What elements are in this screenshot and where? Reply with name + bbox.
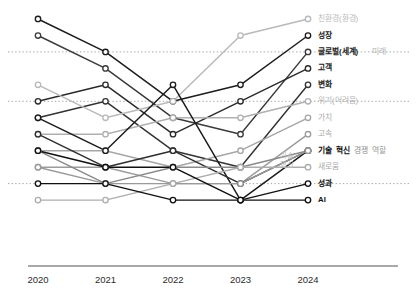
series-point <box>103 115 108 120</box>
series-label: 위기(어려움) <box>318 95 359 105</box>
series-line <box>38 151 308 200</box>
series-label: 혁신 <box>336 145 350 155</box>
series-point <box>305 165 310 170</box>
x-tick-2020: 2020 <box>27 274 48 285</box>
series-label: 역할 <box>372 145 386 155</box>
inner-labels: 기술혁신 <box>280 151 294 170</box>
x-tick-2022: 2022 <box>162 274 183 285</box>
series-point <box>238 148 243 153</box>
series-point <box>103 181 108 186</box>
series-lines <box>38 19 308 200</box>
series-point <box>170 165 175 170</box>
series-point <box>35 132 40 137</box>
series-point <box>238 197 243 202</box>
series-label: 기술 <box>318 145 332 155</box>
series-point <box>238 181 243 186</box>
series-label: 가치 <box>318 113 332 122</box>
series-point <box>35 16 40 21</box>
series-point <box>170 197 175 202</box>
series-label: 친환경(환경) <box>318 13 359 23</box>
series-label: 글로벌(세계) <box>318 46 359 56</box>
x-tick-2023: 2023 <box>230 274 251 285</box>
series-point <box>305 16 310 21</box>
series-line <box>38 134 308 183</box>
series-label: AI <box>318 195 326 204</box>
series-point <box>305 115 310 120</box>
chart-canvas: 기술혁신 친환경(환경)성장글로벌(세계)미래고객변화위기(어려움)가치고속기술… <box>0 0 417 301</box>
series-point <box>305 181 310 186</box>
series-point <box>305 82 310 87</box>
series-point <box>170 148 175 153</box>
series-point <box>170 99 175 104</box>
series-markers <box>35 16 310 203</box>
series-point <box>103 49 108 54</box>
series-point <box>305 33 310 38</box>
series-point <box>305 49 310 54</box>
series-point <box>103 66 108 71</box>
series-point <box>170 132 175 137</box>
x-tick-2021: 2021 <box>95 274 116 285</box>
x-axis-tick-labels: 20202021202220232024 <box>27 274 318 285</box>
series-point <box>238 99 243 104</box>
series-line <box>38 134 308 183</box>
series-point <box>35 115 40 120</box>
series-point <box>238 132 243 137</box>
series-point <box>305 99 310 104</box>
series-point <box>35 181 40 186</box>
series-line <box>38 19 308 101</box>
series-point <box>170 82 175 87</box>
series-point <box>35 99 40 104</box>
series-point <box>103 132 108 137</box>
series-label: 성과 <box>318 178 333 188</box>
series-label: 새로움 <box>318 162 339 171</box>
series-label: 고객 <box>318 62 332 72</box>
series-line <box>38 118 308 167</box>
series-point <box>103 82 108 87</box>
series-label: 경쟁 <box>354 145 368 155</box>
series-label: 변화 <box>318 79 333 89</box>
series-point <box>103 197 108 202</box>
series-point <box>305 66 310 71</box>
series-point <box>305 132 310 137</box>
series-point <box>305 197 310 202</box>
series-point <box>35 33 40 38</box>
series-point <box>35 165 40 170</box>
series-point <box>103 148 108 153</box>
series-label: 고속 <box>318 129 332 138</box>
series-label: 성장 <box>318 30 333 40</box>
series-point <box>170 181 175 186</box>
inner-series-label: 혁신 <box>280 160 294 169</box>
inner-series-label: 기술 <box>280 151 294 160</box>
bump-chart: 기술혁신 친환경(환경)성장글로벌(세계)미래고객변화위기(어려움)가치고속기술… <box>0 0 417 301</box>
series-point <box>103 165 108 170</box>
series-point <box>238 115 243 120</box>
series-label: 미래 <box>372 47 386 56</box>
series-point <box>103 99 108 104</box>
series-point <box>170 115 175 120</box>
series-point <box>238 165 243 170</box>
series-point <box>238 33 243 38</box>
series-point <box>35 82 40 87</box>
series-line <box>38 85 308 167</box>
x-tick-2024: 2024 <box>297 274 318 285</box>
series-point <box>305 148 310 153</box>
series-point <box>238 82 243 87</box>
series-point <box>35 197 40 202</box>
series-right-labels: 친환경(환경)성장글로벌(세계)미래고객변화위기(어려움)가치고속기술혁신경쟁역… <box>318 13 386 204</box>
series-point <box>35 148 40 153</box>
